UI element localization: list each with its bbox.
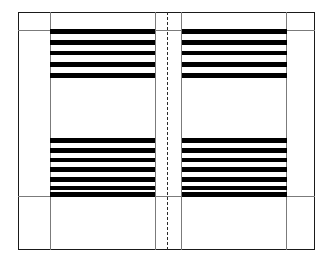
text-line-bar — [50, 29, 155, 34]
text-line-bar — [50, 158, 155, 162]
text-line-bar — [182, 192, 287, 197]
text-line-bar — [182, 158, 287, 162]
text-line-bar — [182, 62, 287, 67]
text-line-bar — [50, 177, 155, 182]
text-line-bar — [50, 192, 155, 197]
text-line-bar — [182, 138, 287, 143]
recto-upper-text-block — [182, 29, 287, 78]
text-line-bar — [182, 148, 287, 153]
text-line-bar — [50, 40, 155, 45]
text-line-bar — [50, 138, 155, 143]
verso-upper-text-block — [50, 29, 155, 78]
text-line-bar — [50, 73, 155, 78]
text-line-bar — [182, 167, 287, 172]
text-line-bar — [182, 186, 287, 190]
text-line-bar — [182, 40, 287, 45]
recto-lower-text-block — [182, 138, 287, 197]
text-line-bar — [50, 167, 155, 172]
text-line-bar — [182, 73, 287, 78]
verso-lower-text-block — [50, 138, 155, 197]
text-line-bar — [182, 51, 287, 55]
left-gutter-margin-guide — [155, 12, 156, 250]
text-line-bar — [50, 51, 155, 55]
text-line-bar — [50, 148, 155, 153]
text-line-bar — [50, 186, 155, 190]
text-line-bar — [182, 29, 287, 34]
center-fold-line — [167, 12, 168, 250]
layout-diagram-canvas — [0, 0, 333, 267]
text-line-bar — [50, 62, 155, 67]
text-line-bar — [182, 177, 287, 182]
